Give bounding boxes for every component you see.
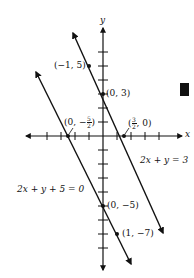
equation-label-1: 2x + y = 3 bbox=[140, 156, 188, 165]
black-square-marker bbox=[180, 83, 189, 96]
equation-label-2: 2x + y + 5 = 0 bbox=[17, 185, 84, 194]
point-label-0-neg5: (0, −5) bbox=[107, 201, 139, 210]
point-label-3-2-0: (32, 0) bbox=[128, 117, 151, 130]
x-axis-label: x bbox=[185, 130, 190, 139]
point-label-0-3: (0, 3) bbox=[106, 89, 130, 98]
denominator: 2 bbox=[132, 124, 136, 130]
point-label-neg1-5: (−1, 5) bbox=[54, 61, 86, 70]
point-label-0-neg5-2: (0, −52) bbox=[64, 116, 95, 129]
label-close: ) bbox=[92, 117, 96, 127]
y-axis-label: y bbox=[100, 16, 105, 25]
label-open: (0, − bbox=[64, 117, 87, 127]
point-label-1-neg7: (1, −7) bbox=[122, 229, 154, 238]
label-close: , 0) bbox=[137, 118, 152, 128]
coordinate-plane bbox=[0, 0, 194, 278]
denominator: 2 bbox=[87, 123, 91, 129]
